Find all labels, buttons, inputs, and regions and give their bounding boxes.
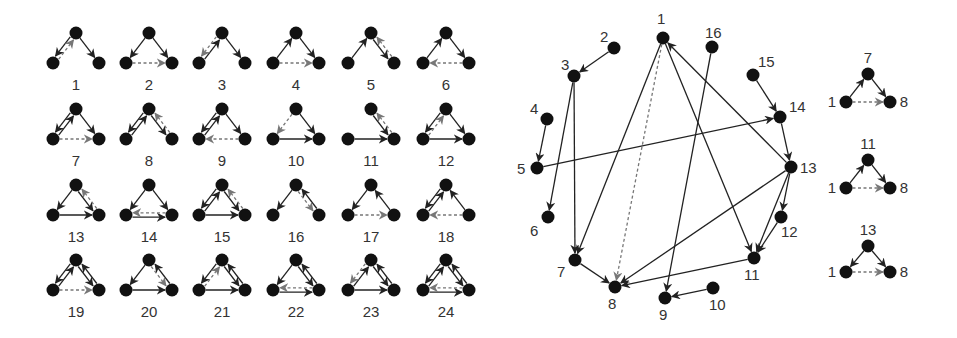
motif-label: 17 (363, 228, 380, 245)
network-node-label: 13 (800, 159, 817, 176)
network-node-label: 8 (608, 295, 616, 312)
network-edge-15-14 (757, 80, 777, 111)
motif-label: 12 (438, 152, 455, 169)
motif-label: 4 (292, 76, 300, 93)
motif-13: 13 (47, 179, 106, 246)
motif-node (143, 254, 156, 267)
motif-node (440, 254, 453, 267)
motif-edge (153, 38, 168, 57)
network-node-label: 6 (530, 222, 538, 239)
side-triad-left-label: 1 (828, 263, 836, 280)
motif-19: 19 (47, 254, 106, 321)
network-node-8 (609, 281, 622, 294)
network-node-10 (707, 282, 720, 295)
motif-node (216, 179, 229, 192)
motif-label: 1 (72, 76, 80, 93)
motif-node (388, 57, 401, 70)
motif-22: 22 (267, 254, 326, 321)
motif-edge (226, 114, 241, 133)
motif-label: 9 (218, 152, 226, 169)
network-dashed-edge-1-8 (616, 44, 661, 280)
motif-node (388, 209, 401, 222)
network-node-14 (774, 111, 787, 124)
side-triad-top-label: 13 (860, 221, 877, 238)
motif-node (93, 284, 106, 297)
network-node-label: 10 (709, 296, 726, 313)
network-edge-1-11 (665, 44, 751, 252)
motif-node (342, 57, 355, 70)
motif-24: 24 (417, 254, 476, 321)
motif-18: 18 (417, 179, 476, 246)
motif-23: 23 (342, 254, 401, 321)
motif-16: 16 (267, 179, 326, 246)
motif-node (216, 254, 229, 267)
motif-node (862, 154, 875, 167)
motif-edge (130, 265, 145, 284)
motif-label: 16 (288, 228, 305, 245)
network-node-1 (657, 32, 670, 45)
network-node-label: 14 (789, 98, 806, 115)
motif-edge (850, 166, 864, 183)
motif-edge (427, 39, 442, 58)
network-node-13 (785, 161, 798, 174)
motif-node (166, 133, 179, 146)
motif-edge (130, 38, 145, 57)
motif-label: 21 (214, 303, 231, 320)
network-node-16 (706, 41, 719, 54)
motif-node (193, 209, 206, 222)
motif-node (884, 182, 897, 195)
motif-node (290, 254, 303, 267)
side-triad-right-label: 8 (900, 93, 908, 110)
motif-edge (277, 190, 292, 209)
motif-6: 6 (417, 27, 476, 94)
motif-label: 7 (72, 152, 80, 169)
network-edge-11-8 (622, 259, 748, 285)
network-node-15 (747, 69, 760, 82)
network-edge-13-8 (621, 171, 786, 283)
motif-label: 20 (141, 303, 158, 320)
motif-node (440, 27, 453, 40)
side-triad-11: 1118 (828, 135, 908, 196)
motif-edge (450, 191, 465, 210)
motif-node (166, 284, 179, 297)
motif-node (463, 284, 476, 297)
motif-node (267, 209, 280, 222)
motif-node (143, 103, 156, 116)
motif-label: 10 (288, 152, 305, 169)
motif-7: 7 (47, 103, 106, 170)
network-edge-10-9 (672, 289, 707, 296)
motif-node (93, 209, 106, 222)
network-edge-7-8 (580, 264, 609, 283)
motif-node (313, 133, 326, 146)
motif-edge (450, 114, 465, 133)
motif-node (365, 254, 378, 267)
motif-edge (153, 190, 168, 209)
motif-dashed-edge (277, 114, 292, 133)
network-node-11 (748, 252, 761, 265)
motif-edge (851, 251, 864, 267)
diagram-canvas: 123456789101112131415161718192021222324 … (0, 0, 957, 338)
network-node-4 (541, 113, 554, 126)
motif-1: 1 (47, 27, 106, 94)
network-edge-16-9 (666, 53, 711, 291)
network-edge-3-7 (574, 82, 575, 253)
motif-edge (277, 39, 292, 58)
network-node-label: 4 (530, 100, 538, 117)
motif-node (463, 57, 476, 70)
network-edge-14-13 (781, 123, 789, 160)
motif-node (417, 57, 430, 70)
motif-label: 15 (214, 228, 231, 245)
motif-node (417, 133, 430, 146)
motif-node (239, 209, 252, 222)
motif-label: 18 (438, 228, 455, 245)
motif-node (417, 209, 430, 222)
motif-node (862, 68, 875, 81)
motif-node (440, 103, 453, 116)
motif-node (342, 133, 355, 146)
motif-node (47, 57, 60, 70)
motif-node (239, 57, 252, 70)
motif-node (463, 209, 476, 222)
motif-node (313, 209, 326, 222)
motif-node (70, 254, 83, 267)
network-edge-4-5 (538, 125, 545, 161)
